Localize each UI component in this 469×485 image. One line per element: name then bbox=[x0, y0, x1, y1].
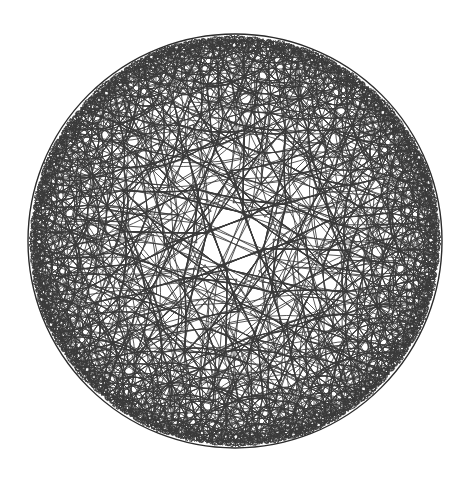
geodesic-arc bbox=[259, 257, 314, 317]
geodesic-arc bbox=[42, 312, 43, 313]
geodesic-arc bbox=[278, 437, 279, 441]
geodesic-arc bbox=[257, 442, 258, 445]
geodesic-arc bbox=[326, 57, 327, 58]
geodesic-arc bbox=[94, 389, 95, 391]
geodesic-arc bbox=[337, 419, 338, 420]
geodesic-arc bbox=[431, 198, 435, 199]
geodesic-arc bbox=[374, 92, 375, 95]
geodesic-arc bbox=[144, 424, 145, 425]
geodesic-arc bbox=[44, 317, 46, 318]
geodesic-arc bbox=[429, 284, 430, 291]
geodesic-arc bbox=[94, 92, 95, 95]
geodesic-arc bbox=[186, 440, 188, 441]
geodesic-arc bbox=[373, 391, 374, 393]
geodesic-arc bbox=[191, 44, 196, 45]
hyperbolic-tessellation-figure: Poincare disk hyperbolic tessellation Hy… bbox=[0, 0, 469, 485]
geodesic-arc bbox=[251, 161, 311, 216]
geodesic-arc bbox=[67, 359, 68, 361]
geodesic-arc bbox=[418, 331, 419, 332]
geodesic-arc bbox=[44, 163, 45, 164]
geodesic-arc bbox=[38, 185, 39, 187]
geodesic-arc bbox=[158, 265, 218, 320]
geodesic-arc bbox=[410, 139, 411, 144]
geodesic-arc bbox=[240, 445, 241, 447]
geodesic-arc bbox=[332, 416, 337, 417]
geodesic-arc bbox=[157, 430, 158, 431]
geodesic-arc bbox=[97, 88, 98, 89]
poincare-disk-diagram: Poincare disk hyperbolic tessellation Hy… bbox=[0, 0, 469, 485]
geodesic-arc bbox=[422, 156, 423, 157]
geodesic-arc bbox=[336, 65, 339, 66]
geodesic-arc bbox=[155, 164, 210, 224]
geodesic-arc bbox=[311, 431, 312, 433]
geodesic-arc bbox=[385, 103, 387, 104]
geodesic-arc bbox=[392, 108, 393, 109]
geodesic-arc bbox=[255, 59, 256, 90]
geodesic-arc bbox=[80, 373, 81, 375]
geodesic-arc bbox=[435, 200, 437, 201]
geodesic-arc-layer bbox=[29, 35, 440, 446]
geodesic-arc bbox=[113, 406, 114, 407]
geodesic-arc bbox=[63, 130, 67, 131]
geodesic-arc bbox=[29, 246, 31, 247]
